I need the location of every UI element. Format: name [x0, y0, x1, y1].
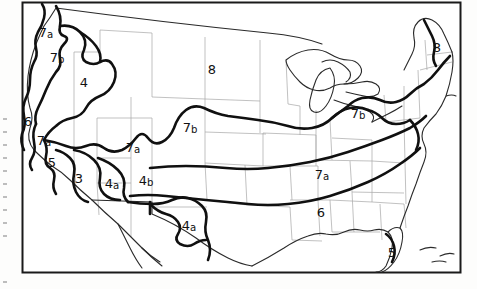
map-figure: 7a 7b 4 8 8 6 7a 7b 7b 7a 5 3 4a 4b 4a 7… [0, 0, 477, 289]
zone-label-6-northern-california: 6 [24, 115, 32, 128]
zone-label-8-maine: 8 [433, 41, 441, 54]
zone-label-4b-new-mexico: 4b [139, 174, 154, 187]
zone-label-7b-washington: 7b [50, 51, 65, 64]
zone-label-3-desert-southwest: 3 [75, 172, 83, 185]
zone-label-4a-arizona: 4a [105, 177, 120, 190]
zone-label-7a-pacific-northwest: 7a [39, 26, 54, 39]
zone-label-6-gulf-coast: 6 [317, 206, 325, 219]
left-margin-artifacts [3, 118, 7, 283]
zone-label-5-florida: 5 [388, 246, 396, 259]
zone-label-4a-texas: 4a [182, 219, 197, 232]
zone-label-7b-ohio-valley: 7b [351, 107, 366, 120]
zone-label-4-idaho: 4 [80, 76, 88, 89]
zone-label-8-northern-plains: 8 [208, 63, 216, 76]
zone-label-7a-southeast: 7a [315, 168, 330, 181]
us-zone-map-graphic [0, 0, 477, 289]
zone-label-7a-great-basin: 7a [126, 141, 141, 154]
zone-label-7b-central-plains: 7b [183, 121, 198, 134]
zone-label-5-southern-california: 5 [48, 156, 56, 169]
zone-label-7a-california-coast: 7a [37, 134, 52, 147]
map-frame [23, 3, 461, 273]
